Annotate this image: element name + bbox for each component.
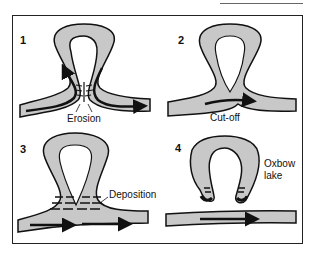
panel-number-1: 1 <box>20 34 26 46</box>
panel-number-3: 3 <box>20 143 26 155</box>
meander-river-1 <box>20 24 150 117</box>
label-cut-off: Cut-off <box>210 112 240 123</box>
panel-2: 2 Cut-off <box>168 24 296 123</box>
panel-1: 1 Erosion <box>20 24 150 124</box>
label-deposition: Deposition <box>109 189 156 200</box>
label-lake: lake <box>264 170 283 181</box>
oxbow-diagram: 1 Erosion 2 Cut-off 3 Deposition 4 Oxbow… <box>0 0 311 254</box>
label-oxbow: Oxbow <box>264 158 296 169</box>
label-erosion: Erosion <box>67 113 101 124</box>
panel-3: 3 Deposition <box>18 133 156 232</box>
panel-number-2: 2 <box>178 34 184 46</box>
panel-number-4: 4 <box>175 142 182 154</box>
oxbow-lake <box>190 136 259 203</box>
panel-4: 4 Oxbow lake <box>166 136 296 226</box>
